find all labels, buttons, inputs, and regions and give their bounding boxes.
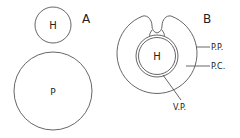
large-circle-label: P — [50, 87, 56, 97]
reflection-right — [162, 30, 164, 36]
pc-label: P.C. — [211, 62, 225, 71]
reflection-left — [150, 30, 152, 36]
diagram-canvas: H A P B H P.P. P.C. V.P. — [0, 0, 240, 138]
vp-label: V.P. — [173, 103, 186, 112]
panel-a: H A P — [14, 7, 92, 130]
small-circle-label: H — [49, 20, 57, 31]
panel-a-label: A — [82, 12, 91, 26]
panel-b: B H P.P. P.C. V.P. — [117, 12, 225, 112]
panel-b-label: B — [203, 12, 211, 26]
pp-label: P.P. — [211, 43, 223, 52]
heart-label: H — [153, 51, 161, 62]
